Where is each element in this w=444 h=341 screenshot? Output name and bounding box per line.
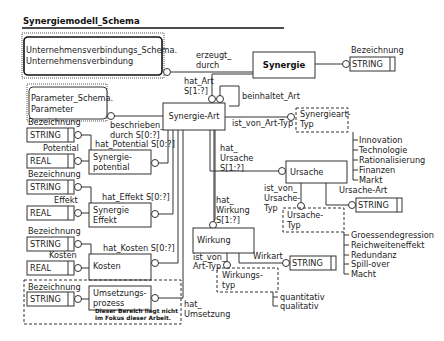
- relation-end-circle: [164, 69, 171, 76]
- type: STRING: [30, 239, 61, 249]
- svg-text:Technologie: Technologie: [358, 145, 407, 155]
- label: Unternehmensverbindung: [26, 56, 133, 66]
- attr-label: Kosten: [49, 250, 77, 260]
- label: Effekt: [93, 215, 118, 225]
- relation-hat-art: S[1:?]: [184, 86, 208, 96]
- type: STRING: [30, 294, 61, 304]
- label: Wirkungs-: [222, 270, 263, 280]
- svg-text:Markt: Markt: [359, 175, 383, 185]
- relation-ist-von-ursache-typ: ist_von_: [264, 183, 298, 193]
- type: REAL: [30, 263, 51, 273]
- svg-text:Rationalisierung: Rationalisierung: [359, 155, 425, 165]
- attr-label: Bezeichnung: [28, 169, 81, 179]
- note-text: im Fokus dieser Arbeit.: [95, 315, 171, 321]
- label: Unternehmensverbindungs_Schema.: [26, 45, 177, 55]
- attr-label: Bezeichnung: [28, 226, 81, 236]
- svg-text:Innovation: Innovation: [359, 135, 402, 145]
- relation-hat-ursache: S[1:?]: [220, 163, 244, 173]
- relation-hat-kosten: hat_Kosten S[0:?]: [103, 243, 175, 253]
- svg-text:Reichweiteneffekt: Reichweiteneffekt: [351, 240, 425, 250]
- label: Synergie-Art: [169, 111, 221, 121]
- relation-erzeugt-durch: durch: [196, 60, 219, 70]
- attr-label: Bezeichnung: [351, 45, 404, 55]
- svg-text:Finanzen: Finanzen: [359, 165, 395, 175]
- relation-erzeugt-durch: erzeugt_: [196, 50, 232, 60]
- svg-text:Macht: Macht: [351, 269, 377, 279]
- label: Synergie: [263, 60, 306, 70]
- relation-hat-ursache: hat_: [220, 143, 238, 153]
- relation-beinhaltet-art: beinhaltet_Art: [242, 91, 301, 101]
- type: STRING: [30, 182, 61, 192]
- label: Ursache-: [287, 210, 323, 220]
- note-text: Dieser Bereich liegt nicht: [95, 308, 178, 315]
- attr-label: Effekt: [54, 195, 79, 205]
- relation-hat-wirkung: hat_: [216, 195, 234, 205]
- label: Parameter_Schema.: [31, 93, 113, 103]
- type: REAL: [30, 156, 51, 166]
- type: STRING: [358, 200, 389, 210]
- diagram-title: Synergiemodell_Schema: [23, 16, 140, 26]
- label: Parameter: [31, 104, 74, 114]
- relation-hat-potential: hat_Potential S[0:?]: [95, 139, 175, 149]
- label: Kosten: [93, 261, 121, 271]
- enum-ursache-typ: Groessendegression Reichweiteneffekt Red…: [344, 230, 434, 279]
- relation-hat-effekt: hat_Effekt S[0:?]: [102, 192, 170, 202]
- svg-text:qualitativ: qualitativ: [280, 301, 319, 311]
- attr-label: Ursache-Art: [339, 185, 388, 195]
- relation-hat-art: hat_Art: [184, 76, 214, 86]
- label: typ: [222, 280, 235, 290]
- relation-ist-von-art-typ: ist_von_Art-Typ: [232, 118, 293, 128]
- attr-label: Bezeichnung: [28, 117, 81, 127]
- attr-label: Bezeichnung: [28, 282, 81, 292]
- label: potential: [93, 162, 129, 172]
- attr-label: Potential: [43, 143, 79, 153]
- relation-ist-von-ursache-typ: Typ: [263, 203, 278, 213]
- type: STRING: [30, 130, 61, 140]
- relation-wirkung-ist-von-art-typ: Art-Typ: [193, 261, 221, 271]
- label: Synergie-: [93, 152, 132, 162]
- enum-synergieart-typ: Innovation Technologie Rationalisierung …: [353, 135, 425, 185]
- synergy-schema-diagram: Synergiemodell_Schema Unternehmensverbin…: [0, 0, 444, 341]
- label: prozess: [93, 298, 124, 308]
- svg-text:Spill-over: Spill-over: [351, 259, 390, 269]
- entity-parameter[interactable]: [29, 87, 107, 119]
- label: Synergie: [93, 205, 129, 215]
- relation-hat-wirkung: Wirkung: [216, 205, 250, 215]
- type: STRING: [352, 59, 383, 69]
- relation-hat-umsetzung: hat_: [184, 299, 202, 309]
- svg-text:Groessendegression: Groessendegression: [351, 230, 434, 240]
- label: Typ: [299, 119, 314, 129]
- label: Ursache: [290, 167, 323, 177]
- relation-ist-von-ursache-typ: Ursache-: [264, 193, 300, 203]
- relation-hat-umsetzung: Umsetzung: [184, 309, 230, 319]
- relation-hat-ursache: Ursache: [220, 153, 253, 163]
- enum-wirkungstyp: quantitativ qualitativ: [273, 292, 325, 311]
- type: STRING: [292, 258, 323, 268]
- label: Umsetzungs-: [93, 288, 147, 298]
- attr-label: Wirkart: [253, 251, 284, 261]
- relation-hat-wirkung: S[1:?]: [216, 215, 240, 225]
- label: Synergieart-: [300, 109, 351, 119]
- label: Wirkung: [197, 235, 231, 245]
- relation-beschrieben-durch: beschrieben_: [110, 120, 165, 130]
- label: Typ: [286, 220, 301, 230]
- type: REAL: [30, 208, 51, 218]
